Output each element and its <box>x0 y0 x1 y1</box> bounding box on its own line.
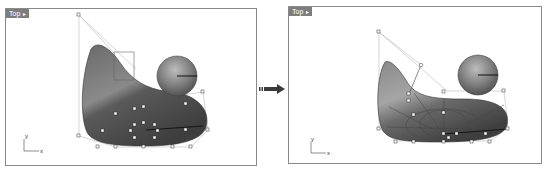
scene-before[interactable]: y x <box>6 9 258 167</box>
axis-x-label: x <box>40 148 43 154</box>
axis-y-label: y <box>311 136 314 142</box>
viewport-tab-label: Top <box>9 10 20 17</box>
axis-x-label: x <box>327 150 330 156</box>
chevron-right-icon: ▸ <box>306 9 309 15</box>
viewport-after[interactable]: y x Top ▸ <box>288 6 542 164</box>
scene-after[interactable]: y x <box>289 7 543 165</box>
chevron-right-icon: ▸ <box>23 11 26 17</box>
viewport-before[interactable]: y x Top ▸ <box>5 8 257 166</box>
axis-gizmo <box>311 142 326 153</box>
viewport-tab-top[interactable]: Top ▸ <box>289 7 312 16</box>
viewport-tab-label: Top <box>292 8 303 15</box>
axis-gizmo <box>24 139 39 151</box>
right-arrow-icon <box>259 83 287 95</box>
axis-y-label: y <box>25 133 28 139</box>
viewport-tab-top[interactable]: Top ▸ <box>6 9 29 18</box>
